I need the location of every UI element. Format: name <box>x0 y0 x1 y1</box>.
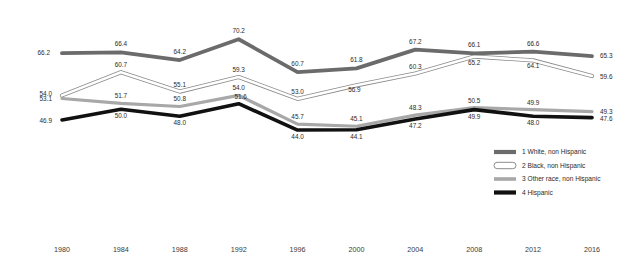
data-label: 70.2 <box>232 27 245 34</box>
data-label: 48.0 <box>527 119 540 126</box>
legend-label: 4 Hispanic <box>522 189 553 197</box>
data-label: 45.1 <box>350 115 363 122</box>
data-label: 55.1 <box>174 81 187 88</box>
series-line-2 <box>62 57 592 99</box>
data-label: 54.0 <box>232 84 245 91</box>
data-label: 49.9 <box>527 99 540 106</box>
data-label: 46.9 <box>40 117 53 124</box>
data-label: 66.2 <box>38 49 51 56</box>
x-axis-tick-1988: 1988 <box>172 245 188 254</box>
data-label: 50.0 <box>115 112 128 119</box>
data-label: 60.7 <box>115 61 128 68</box>
x-axis-tick-2004: 2004 <box>407 245 423 254</box>
data-label: 48.0 <box>174 119 187 126</box>
data-label: 53.1 <box>40 95 53 102</box>
chart-legend: 1 White, non Hispanic2 Black, non Hispan… <box>494 148 601 197</box>
data-label: 48.3 <box>409 104 422 111</box>
x-axis-tick-2000: 2000 <box>348 245 364 254</box>
data-label: 59.6 <box>600 73 613 80</box>
legend-label: 2 Black, non Hispanic <box>522 162 586 170</box>
series-layer <box>62 39 592 130</box>
legend-item-1[interactable]: 1 White, non Hispanic <box>494 148 587 156</box>
data-label: 50.8 <box>174 95 187 102</box>
x-axis-tick-2012: 2012 <box>525 245 541 254</box>
series-line-1 <box>62 39 592 72</box>
data-label: 65.3 <box>600 52 613 59</box>
data-label: 66.1 <box>468 41 481 48</box>
data-label: 56.9 <box>348 86 361 93</box>
legend-item-4[interactable]: 4 Hispanic <box>494 189 553 197</box>
data-label: 44.0 <box>291 133 304 140</box>
data-label: 61.8 <box>350 56 363 63</box>
data-label: 66.4 <box>115 40 128 47</box>
x-axis-labels: 1980198419881992199620002004200820122016 <box>54 245 600 254</box>
x-axis-tick-1980: 1980 <box>54 245 70 254</box>
data-label-layer: 66.266.464.270.260.761.867.266.166.665.3… <box>38 27 613 140</box>
data-label: 60.7 <box>291 60 304 67</box>
data-label: 65.2 <box>468 59 481 66</box>
data-label: 51.6 <box>234 93 247 100</box>
legend-item-2[interactable]: 2 Black, non Hispanic <box>494 162 586 170</box>
data-label: 47.2 <box>409 122 422 129</box>
line-chart: 66.266.464.270.260.761.867.266.166.665.3… <box>0 0 639 280</box>
data-label: 66.6 <box>527 40 540 47</box>
legend-label: 3 Other race, non Hispanic <box>522 175 601 183</box>
data-label: 51.7 <box>115 92 128 99</box>
legend-label: 1 White, non Hispanic <box>522 148 587 156</box>
data-label: 60.3 <box>409 63 422 70</box>
data-label: 44.1 <box>350 133 363 140</box>
x-axis-tick-1992: 1992 <box>231 245 247 254</box>
data-label: 45.7 <box>291 113 304 120</box>
x-axis-tick-1984: 1984 <box>113 245 129 254</box>
data-label: 53.0 <box>291 88 304 95</box>
data-label: 67.2 <box>409 38 422 45</box>
data-label: 50.5 <box>468 97 481 104</box>
data-label: 59.3 <box>232 66 245 73</box>
x-axis-tick-2016: 2016 <box>584 245 600 254</box>
chart-plot-area: 66.266.464.270.260.761.867.266.166.665.3… <box>0 0 639 280</box>
data-label: 47.6 <box>600 115 613 122</box>
data-label: 49.9 <box>468 113 481 120</box>
legend-item-3[interactable]: 3 Other race, non Hispanic <box>494 175 601 183</box>
x-axis-tick-2008: 2008 <box>466 245 482 254</box>
data-label: 64.2 <box>174 48 187 55</box>
data-label: 64.1 <box>527 62 540 69</box>
x-axis-tick-1996: 1996 <box>290 245 306 254</box>
